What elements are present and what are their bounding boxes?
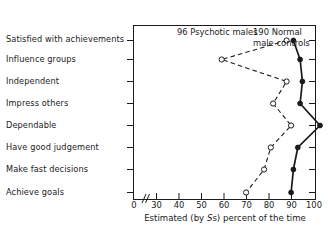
x-tick-label-40: 40 xyxy=(174,200,185,210)
data-point-normal-2 xyxy=(300,79,305,84)
series-normal-line xyxy=(289,38,323,195)
legend-label-psychotic: 96 Psychotic males xyxy=(177,27,258,37)
data-point-psychotic-4 xyxy=(289,123,294,128)
x-axis-ticks xyxy=(157,193,292,200)
y-axis-ticks xyxy=(127,41,134,193)
x-tick-label-90: 90 xyxy=(286,200,297,210)
data-point-psychotic-5 xyxy=(268,145,273,150)
chart-figure: Satisfied with achievements Influence gr… xyxy=(0,0,330,232)
data-point-normal-3 xyxy=(298,101,303,106)
x-tick-label-100: 100 xyxy=(306,200,322,210)
legend-label-normal-line1: 190 Normal xyxy=(253,27,310,38)
data-point-normal-4 xyxy=(318,123,323,128)
legend-label-normal: 190 Normal male controls xyxy=(253,27,310,48)
x-tick-label-60: 60 xyxy=(219,200,230,210)
data-point-psychotic-3 xyxy=(271,101,276,106)
x-axis-title-post: s) percent of the time xyxy=(212,213,305,223)
data-point-psychotic-2 xyxy=(284,79,289,84)
x-axis-title: Estimated (by Ss) percent of the time xyxy=(144,213,306,223)
data-point-normal-5 xyxy=(295,145,300,150)
axis-frame xyxy=(134,26,316,200)
axis-break-icon xyxy=(142,194,150,203)
data-point-normal-1 xyxy=(298,57,303,62)
x-tick-label-0: 0 xyxy=(131,200,136,210)
data-point-normal-7 xyxy=(289,190,294,195)
legend-label-normal-line2: male controls xyxy=(253,38,310,49)
data-point-psychotic-6 xyxy=(262,167,267,172)
x-tick-label-80: 80 xyxy=(264,200,275,210)
x-tick-label-30: 30 xyxy=(151,200,162,210)
data-point-normal-6 xyxy=(291,167,296,172)
x-axis-title-pre: Estimated (by xyxy=(144,213,207,223)
x-tick-label-70: 70 xyxy=(241,200,252,210)
series-psychotic-line xyxy=(219,38,294,195)
data-point-psychotic-7 xyxy=(244,190,249,195)
x-tick-label-50: 50 xyxy=(196,200,207,210)
data-point-psychotic-1 xyxy=(219,57,224,62)
